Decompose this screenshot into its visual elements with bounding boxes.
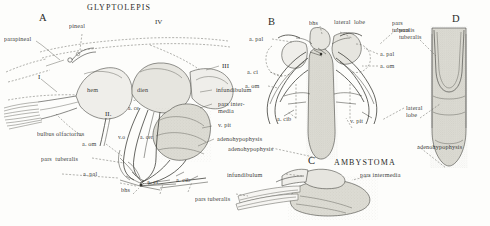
label-a-om-b-left: a. om [245, 82, 260, 89]
panel-b-artwork [266, 27, 377, 160]
label-a-ci-a: a. ci [147, 178, 158, 185]
label-nerve-ii: II. [105, 110, 111, 118]
label-parapineal: parapineal [4, 35, 31, 42]
panel-a-letter: A [39, 12, 47, 23]
label-a-pal-a: a. pal [83, 170, 97, 177]
label-a-cer-upper: a. ce [128, 105, 139, 112]
label-a-cib-b: a. cib [277, 115, 291, 122]
label-adenohypophysis-a: adenohypophysis [217, 135, 262, 142]
label-a-pal-b-right: a. pal [380, 50, 394, 57]
label-lateral-lobe-d-line1: lateral [406, 104, 423, 111]
label-pars-tuberalis-d-line2: tuberalis [399, 33, 422, 40]
label-a-om-b-right: a. om [380, 62, 395, 69]
label-pars-tuberalis-a: pars tuberalis [41, 155, 78, 162]
label-a-cer: a. cer [140, 134, 153, 141]
label-pars-tuberalis-c: pars tuberalis [195, 195, 230, 202]
panel-b-letter: B [268, 16, 275, 27]
label-pars-intermedia-c: pars intermedia [360, 171, 401, 178]
label-lateral-lobe-d-line2: lobe [406, 111, 417, 118]
label-lateral-lobe-b: lateral lobe [334, 18, 365, 25]
panel-d-letter: D [452, 13, 460, 24]
label-nerve-iv: IV [155, 18, 162, 26]
label-pars-intermedia-line2: media [218, 107, 234, 114]
label-pars-intermedia-line1: pars inter- [218, 100, 245, 107]
label-bhs-a: bhs [121, 186, 130, 193]
label-a-pal-b-left: a. pal [249, 35, 263, 42]
label-adenohypophysis-b: adenohypophysis [228, 145, 273, 152]
panel-a-taxon-title: GLYPTOLEPIS [87, 3, 151, 12]
panel-c-taxon-title: AMBYSTOMA [334, 158, 396, 167]
panel-a-artwork [4, 38, 233, 190]
label-pars-tuberalis-d-line1: pars [399, 26, 410, 33]
label-nerve-iii: III [222, 62, 229, 70]
label-bulbus-olfactorius: bulbus olfactorius [37, 130, 84, 137]
label-adenohypophysis-d: adenohypophysis [417, 143, 462, 150]
label-hem: hem [87, 86, 98, 93]
panel-c-letter: C [308, 155, 315, 166]
label-v-o: v.o [118, 134, 125, 141]
label-infundibulum-c: infundibulum [227, 171, 263, 178]
label-bhs-b: bhs [309, 19, 318, 26]
label-pineal: pineal [69, 22, 85, 29]
figure-plate: GLYPTOLEPIS A parapineal pineal IV I hem… [0, 0, 490, 226]
label-v-pit-b: v. pit [350, 117, 363, 124]
label-nerve-i: I [38, 73, 40, 81]
label-dien: dien [137, 86, 148, 93]
label-a-cib-a: a. cib [176, 176, 190, 183]
label-pars-tuberalis-b-line1: pars [392, 19, 403, 26]
label-a-ci-b: a. ci [247, 68, 258, 75]
label-a-om-a: a. om [82, 140, 97, 147]
label-v-pit: v. pit [218, 121, 231, 128]
